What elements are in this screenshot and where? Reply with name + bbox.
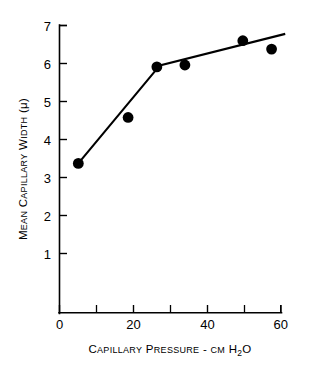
y-tick-label-3: 3 bbox=[44, 171, 51, 186]
x-title-h: H bbox=[229, 343, 238, 355]
axes-group bbox=[59, 25, 282, 314]
data-point-3 bbox=[180, 60, 191, 71]
y-title-ean: EAN bbox=[19, 211, 29, 230]
x-tick-label-60: 60 bbox=[274, 317, 288, 332]
data-point-0 bbox=[73, 158, 84, 169]
data-point-4 bbox=[237, 35, 248, 46]
y-axis-title: MEAN CAPILLARY WIDTH (μ) bbox=[17, 98, 29, 240]
fitted-trend-line bbox=[78, 34, 285, 164]
x-axis-title: CAPILLARY PRESSURE - CM H2O bbox=[88, 343, 251, 358]
data-points-group bbox=[73, 35, 277, 169]
x-title-ressure: RESSURE bbox=[154, 345, 200, 355]
chart-plot-area: 7 6 5 4 3 2 1 0 20 40 60 bbox=[0, 0, 319, 366]
y-tick-labels: 7 6 5 4 3 2 1 bbox=[44, 19, 51, 262]
y-title-m: M bbox=[17, 230, 29, 240]
x-title-p: P bbox=[146, 343, 154, 355]
x-tick-label-0: 0 bbox=[56, 317, 63, 332]
x-title-o: O bbox=[242, 343, 251, 355]
y-tick-label-7: 7 bbox=[44, 19, 51, 34]
y-tick-label-2: 2 bbox=[44, 209, 51, 224]
y-title-unit: (μ) bbox=[17, 98, 29, 113]
x-title-cm: CM bbox=[211, 345, 226, 355]
x-tick-label-20: 20 bbox=[126, 317, 140, 332]
y-title-c: C bbox=[17, 199, 29, 208]
data-point-1 bbox=[123, 112, 134, 123]
data-point-2 bbox=[151, 62, 162, 73]
y-title-idth: IDTH bbox=[19, 117, 29, 139]
x-title-apillary: APILLARY bbox=[97, 345, 142, 355]
y-tick-label-4: 4 bbox=[44, 133, 51, 148]
x-tick-labels: 0 20 40 60 bbox=[56, 317, 288, 332]
data-point-5 bbox=[266, 44, 277, 55]
y-tick-label-1: 1 bbox=[44, 247, 51, 262]
x-tick-label-40: 40 bbox=[200, 317, 214, 332]
y-axis-ticks bbox=[60, 26, 68, 254]
x-axis-ticks bbox=[60, 305, 281, 313]
y-title-w: W bbox=[17, 139, 29, 150]
y-title-apillary: APILLARY bbox=[19, 153, 29, 198]
capillary-chart-figure: 7 6 5 4 3 2 1 0 20 40 60 bbox=[0, 0, 319, 366]
y-tick-label-6: 6 bbox=[44, 57, 51, 72]
y-tick-label-5: 5 bbox=[44, 95, 51, 110]
x-title-c: C bbox=[88, 343, 97, 355]
